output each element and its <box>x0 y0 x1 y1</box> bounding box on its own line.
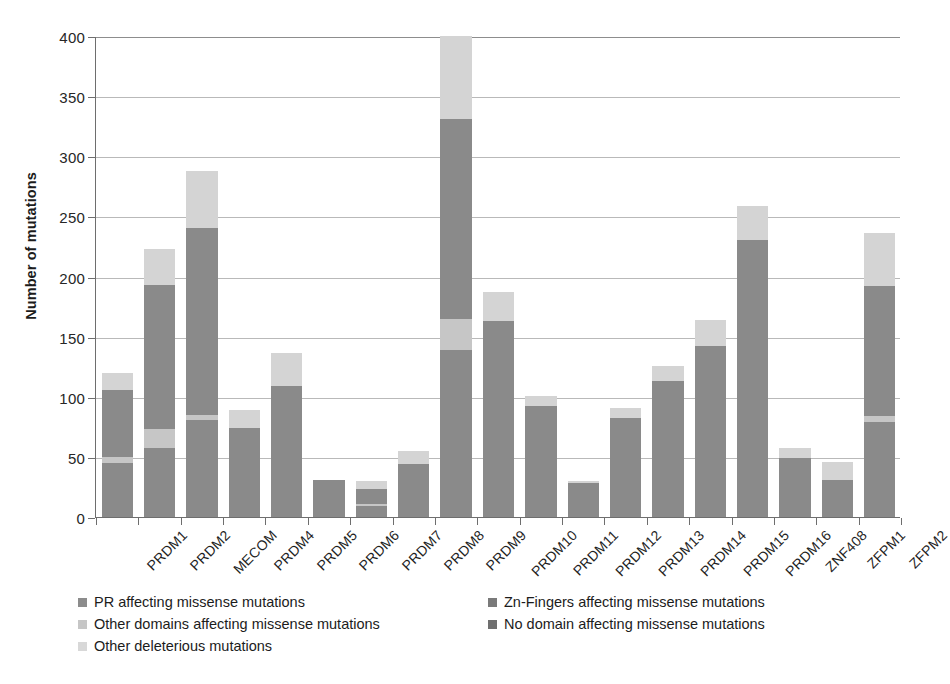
y-axis-title: Number of mutations <box>23 151 39 341</box>
bar-segment <box>483 321 514 517</box>
bar-ZFPM1[interactable] <box>822 462 853 517</box>
bar-segment <box>186 228 217 414</box>
bar-PRDM15[interactable] <box>695 320 726 517</box>
x-tick-mark-9 <box>477 518 478 525</box>
bar-segment <box>483 292 514 321</box>
y-tick-label-350: 350 <box>59 89 85 106</box>
bar-segment <box>229 410 260 428</box>
bar-segment <box>398 464 429 517</box>
legend-label: No domain affecting missense mutations <box>504 616 765 632</box>
legend-item[interactable]: Other domains affecting missense mutatio… <box>78 616 380 632</box>
bar-ZNF408[interactable] <box>779 448 810 517</box>
legend-swatch-icon <box>78 620 87 629</box>
x-tick-mark-5 <box>308 518 309 525</box>
x-tick-mark-16 <box>774 518 775 525</box>
bar-PRDM7[interactable] <box>356 481 387 517</box>
bar-segment <box>610 408 641 419</box>
legend-swatch-icon <box>488 620 497 629</box>
bar-segment <box>186 420 217 517</box>
x-tick-mark-6 <box>350 518 351 525</box>
x-tick-mark-12 <box>604 518 605 525</box>
x-tick-mark-2 <box>181 518 182 525</box>
bar-segment <box>271 386 302 517</box>
bar-segment <box>779 458 810 517</box>
bar-segment <box>271 353 302 385</box>
bar-PRDM12[interactable] <box>568 481 599 517</box>
bar-PRDM2[interactable] <box>144 249 175 517</box>
bar-segment <box>440 119 471 319</box>
y-tick-label-50: 50 <box>68 449 85 466</box>
legend-label: Other domains affecting missense mutatio… <box>94 616 380 632</box>
legend-item[interactable]: Zn-Fingers affecting missense mutations <box>488 594 765 610</box>
bar-ZFPM2[interactable] <box>864 233 895 517</box>
y-tick-mark-200 <box>88 278 95 279</box>
y-tick-mark-350 <box>88 97 95 98</box>
x-tick-label-PRDM4: PRDM4 <box>271 527 318 574</box>
y-tick-label-150: 150 <box>59 329 85 346</box>
x-tick-mark-1 <box>138 518 139 525</box>
x-tick-label-PRDM12: PRDM12 <box>612 527 664 579</box>
bar-segment <box>102 373 133 390</box>
bar-segment <box>102 463 133 517</box>
bar-MECOM[interactable] <box>186 171 217 517</box>
bar-segment <box>525 396 556 407</box>
x-tick-mark-4 <box>265 518 266 525</box>
bar-PRDM4[interactable] <box>229 410 260 517</box>
bar-segment <box>440 350 471 517</box>
x-tick-label-PRDM14: PRDM14 <box>697 527 749 579</box>
y-tick-mark-0 <box>88 518 95 519</box>
legend-item[interactable]: No domain affecting missense mutations <box>488 616 765 632</box>
bar-PRDM13[interactable] <box>610 408 641 517</box>
y-tick-mark-100 <box>88 398 95 399</box>
bar-segment <box>229 428 260 517</box>
legend-label: PR affecting missense mutations <box>94 594 305 610</box>
bar-segment <box>652 366 683 382</box>
bar-segment <box>356 489 387 503</box>
bar-PRDM8[interactable] <box>398 451 429 517</box>
bar-segment <box>440 36 471 119</box>
x-tick-mark-7 <box>393 518 394 525</box>
bar-segment <box>737 240 768 517</box>
legend-item[interactable]: PR affecting missense mutations <box>78 594 305 610</box>
bar-segment <box>864 286 895 416</box>
y-tick-mark-250 <box>88 217 95 218</box>
bar-segment <box>822 480 853 517</box>
x-tick-mark-15 <box>732 518 733 525</box>
bar-segment <box>822 462 853 480</box>
bar-PRDM11[interactable] <box>525 396 556 517</box>
legend-swatch-icon <box>78 598 87 607</box>
x-tick-mark-14 <box>689 518 690 525</box>
bar-segment <box>186 171 217 229</box>
bar-segment <box>864 233 895 286</box>
bar-PRDM10[interactable] <box>483 292 514 517</box>
bar-segment <box>144 249 175 285</box>
bar-PRDM16[interactable] <box>737 206 768 517</box>
legend-swatch-icon <box>78 642 87 651</box>
bar-series-container <box>96 37 900 517</box>
x-tick-mark-end <box>901 518 902 525</box>
x-tick-label-MECOM: MECOM <box>230 527 280 577</box>
x-tick-mark-0 <box>96 518 97 525</box>
chart-legend: PR affecting missense mutationsOther dom… <box>78 594 918 666</box>
x-tick-label-ZFPM1: ZFPM1 <box>863 527 907 571</box>
bar-PRDM14[interactable] <box>652 366 683 518</box>
x-tick-label-PRDM1: PRDM1 <box>144 527 191 574</box>
legend-label: Zn-Fingers affecting missense mutations <box>504 594 765 610</box>
bar-PRDM9[interactable] <box>440 36 471 517</box>
y-tick-label-400: 400 <box>59 29 85 46</box>
x-tick-label-PRDM9: PRDM9 <box>483 527 530 574</box>
y-axis: 050100150200250300350400 <box>0 0 95 555</box>
x-tick-mark-11 <box>562 518 563 525</box>
bar-segment <box>652 381 683 517</box>
bar-segment <box>313 480 344 517</box>
legend-swatch-icon <box>488 598 497 607</box>
x-tick-mark-8 <box>435 518 436 525</box>
bar-PRDM1[interactable] <box>102 373 133 517</box>
bar-segment <box>737 206 768 241</box>
bar-PRDM5[interactable] <box>271 353 302 517</box>
x-tick-mark-10 <box>520 518 521 525</box>
y-tick-label-300: 300 <box>59 149 85 166</box>
legend-item[interactable]: Other deleterious mutations <box>78 638 272 654</box>
bar-PRDM6[interactable] <box>313 480 344 517</box>
